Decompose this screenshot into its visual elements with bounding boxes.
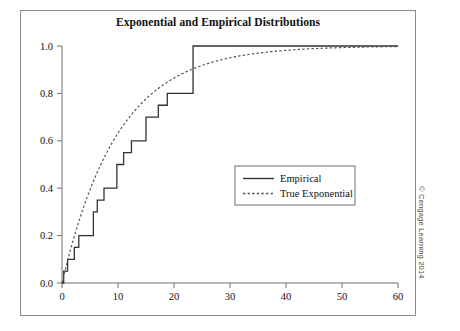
figure-container: Exponential and Empirical Distributions … (0, 0, 460, 331)
x-tick-label: 20 (169, 291, 180, 302)
legend-box (235, 166, 355, 205)
y-axis-ticks (57, 46, 62, 283)
y-tick-label: 0.2 (40, 230, 53, 241)
chart-legend: Empirical True Exponential (235, 166, 355, 205)
x-tick-label: 0 (59, 291, 64, 302)
copyright-credit: © Cengage Learning 2014 (417, 186, 426, 306)
legend-label-true-exponential: True Exponential (280, 188, 353, 199)
axis-lines (62, 46, 398, 283)
y-tick-label: 0.6 (40, 135, 53, 146)
y-tick-label: 0.0 (40, 278, 53, 289)
legend-label-empirical: Empirical (280, 173, 321, 184)
x-axis-ticks (62, 283, 398, 288)
x-tick-label: 60 (393, 291, 404, 302)
x-tick-label: 10 (113, 291, 124, 302)
y-tick-label: 0.8 (40, 88, 53, 99)
x-tick-label: 50 (337, 291, 348, 302)
chart-plot: 0.00.20.40.60.81.0 0102030405060 Empiric… (0, 0, 460, 331)
series-empirical-line (62, 46, 398, 283)
y-tick-label: 1.0 (40, 41, 53, 52)
x-axis-tick-labels: 0102030405060 (59, 291, 403, 302)
series-true-exponential-line (62, 47, 398, 283)
y-tick-label: 0.4 (40, 183, 54, 194)
x-tick-label: 40 (281, 291, 292, 302)
y-axis-tick-labels: 0.00.20.40.60.81.0 (40, 41, 54, 289)
x-tick-label: 30 (225, 291, 236, 302)
